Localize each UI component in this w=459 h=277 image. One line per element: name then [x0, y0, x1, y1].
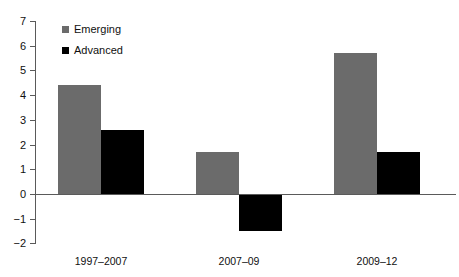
bar-emerging-2009-12	[334, 53, 377, 194]
legend-label-advanced: Advanced	[74, 45, 123, 56]
y-tick-mark	[30, 120, 36, 121]
legend-label-emerging: Emerging	[74, 24, 121, 35]
y-tick-mark	[30, 243, 36, 244]
y-tick-mark	[30, 95, 36, 96]
gray-square-icon	[62, 26, 69, 33]
y-tick-mark	[30, 46, 36, 47]
y-tick-mark	[30, 70, 36, 71]
x-axis-label-2009-12: 2009–12	[327, 256, 427, 267]
y-tick-label-4: 4	[8, 90, 26, 101]
y-tick-label-3: 3	[8, 115, 26, 126]
y-tick-label-2: 2	[8, 140, 26, 151]
y-tick-label-0: 0	[8, 189, 26, 200]
legend-item-advanced: Advanced	[62, 45, 123, 56]
y-tick-mark	[30, 194, 36, 195]
y-tick-label-7: 7	[8, 16, 26, 27]
bar-emerging-1997-2007	[58, 85, 101, 194]
y-tick-mark	[30, 21, 36, 22]
y-tick-label-neg1: −1	[4, 214, 26, 225]
black-square-icon	[62, 47, 69, 54]
bar-advanced-2007-09	[239, 195, 282, 231]
bar-advanced-2009-12	[377, 152, 420, 194]
y-tick-label-5: 5	[8, 65, 26, 76]
bar-advanced-1997-2007	[101, 130, 144, 194]
y-tick-label-6: 6	[8, 41, 26, 52]
y-tick-label-1: 1	[8, 164, 26, 175]
y-tick-label-neg2: −2	[4, 238, 26, 249]
x-axis-label-2007-09: 2007–09	[189, 256, 289, 267]
bar-chart: 7 6 5 4 3 2 1 0 −1 −2 Emerging Advanced …	[0, 0, 459, 277]
y-tick-mark	[30, 169, 36, 170]
y-tick-mark	[30, 145, 36, 146]
y-axis-line	[35, 21, 36, 244]
x-axis-label-1997-2007: 1997–2007	[51, 256, 151, 267]
y-tick-mark	[30, 219, 36, 220]
legend-item-emerging: Emerging	[62, 24, 121, 35]
bar-emerging-2007-09	[196, 152, 239, 194]
